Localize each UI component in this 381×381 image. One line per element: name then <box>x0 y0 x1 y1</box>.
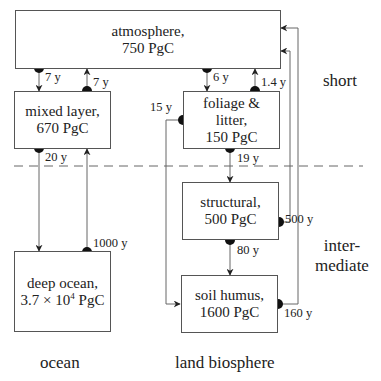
soil-humus-box: soil humus, 1600 PgC <box>181 275 278 333</box>
mixed-layer-amount: 670 PgC <box>36 120 88 137</box>
flux-foliage-to-soil: 15 y <box>150 101 172 114</box>
flux-soil-to-atm: 160 y <box>284 307 312 320</box>
deep-ocean-name: deep ocean, <box>27 275 98 292</box>
column-land-biosphere: land biosphere <box>175 353 275 373</box>
flux-structural-to-atm: 500 y <box>285 213 313 226</box>
carbon-cycle-diagram: atmosphere, 750 PgC mixed layer, 670 PgC… <box>0 0 381 381</box>
flux-deep-to-mixed: 1000 y <box>93 237 127 250</box>
structural-amount: 500 PgC <box>204 211 256 228</box>
soil-humus-amount: 1600 PgC <box>200 304 260 321</box>
soil-humus-name: soil humus, <box>195 287 264 304</box>
timescale-intermediate: inter- mediate <box>306 236 378 276</box>
structural-name: structural, <box>200 194 260 211</box>
atmosphere-amount: 750 PgC <box>122 40 174 57</box>
column-ocean: ocean <box>40 353 80 373</box>
structural-box: structural, 500 PgC <box>182 182 279 240</box>
mixed-layer-box: mixed layer, 670 PgC <box>14 91 111 149</box>
atmosphere-box: atmosphere, 750 PgC <box>15 10 281 69</box>
deep-ocean-amount: 3.7 × 104 PgC <box>21 292 105 309</box>
flux-structural-to-soil: 80 y <box>237 244 259 257</box>
foliage-name: foliage & <box>203 95 260 112</box>
timescale-short: short <box>323 71 357 91</box>
foliage-name-2: litter, <box>216 112 247 129</box>
foliage-amount: 150 PgC <box>205 129 257 146</box>
atmosphere-name: atmosphere, <box>112 23 185 40</box>
flux-mixed-to-deep: 20 y <box>45 151 67 164</box>
flux-foliage-to-structural: 19 y <box>237 152 259 165</box>
flux-atm-to-foliage: 6 y <box>213 71 229 84</box>
flux-foliage-to-atm: 1.4 y <box>261 76 286 89</box>
flux-atm-to-mixed: 7 y <box>45 71 61 84</box>
mixed-layer-name: mixed layer, <box>25 103 99 120</box>
flux-mixed-to-atm: 7 y <box>93 76 109 89</box>
foliage-litter-box: foliage & litter, 150 PgC <box>183 91 280 149</box>
deep-ocean-box: deep ocean, 3.7 × 104 PgC <box>14 251 111 332</box>
